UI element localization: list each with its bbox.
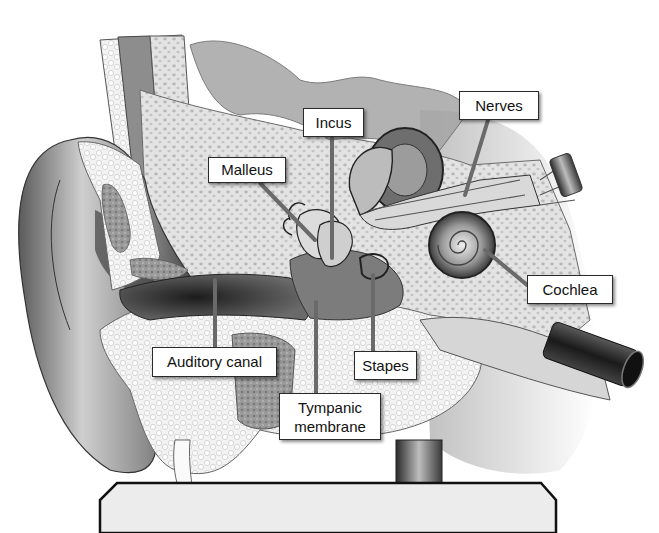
label-auditory-canal: Auditory canal	[152, 347, 277, 377]
label-cochlea-text: Cochlea	[542, 281, 597, 299]
label-cochlea: Cochlea	[527, 275, 613, 304]
label-tympanic-line2: membrane	[294, 417, 366, 436]
label-malleus-text: Malleus	[221, 161, 273, 179]
label-tympanic-membrane: Tympanic membrane	[279, 393, 381, 440]
label-nerves-text: Nerves	[475, 97, 523, 115]
label-auditory-canal-text: Auditory canal	[167, 353, 262, 371]
ear-anatomy-illustration	[0, 0, 659, 533]
label-incus-text: Incus	[316, 114, 352, 132]
display-stand	[100, 483, 556, 533]
label-nerves: Nerves	[459, 91, 539, 120]
label-incus: Incus	[303, 108, 364, 137]
cochlea-spiral	[429, 212, 495, 278]
label-tympanic-line1: Tympanic	[298, 398, 362, 417]
label-stapes-text: Stapes	[362, 357, 409, 375]
label-malleus: Malleus	[208, 157, 286, 183]
ear-diagram: Malleus Incus Nerves Cochlea Auditory ca…	[0, 0, 659, 533]
label-stapes: Stapes	[354, 351, 417, 380]
